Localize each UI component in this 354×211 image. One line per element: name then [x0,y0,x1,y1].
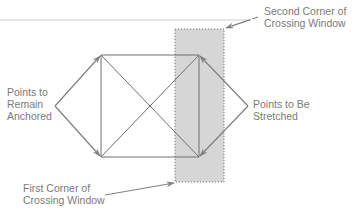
second-corner-arrow [226,17,258,28]
label-first-corner: First Corner of Crossing Window [23,182,105,206]
label-anchored: Points to Remain Anchored [7,86,52,122]
label-second-corner: Second Corner of Crossing Window [264,5,346,29]
first-corner-arrow [105,183,174,195]
label-stretched: Points to Be Stretched [253,98,310,122]
anchored-arrows [55,56,100,156]
